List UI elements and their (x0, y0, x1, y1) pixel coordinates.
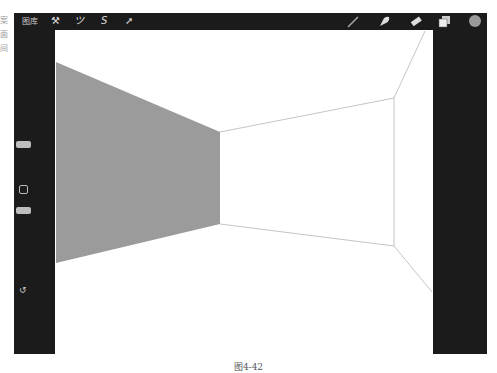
drawing-canvas[interactable] (55, 30, 433, 354)
opacity-slider[interactable] (16, 207, 31, 214)
right-panel (433, 30, 487, 354)
smudge-icon[interactable] (377, 14, 391, 28)
perspective-lines (220, 31, 432, 292)
figure-caption: 图4-42 (0, 360, 497, 373)
layers-icon[interactable] (438, 15, 451, 28)
gallery-button[interactable]: 图库 (22, 15, 38, 26)
modify-button[interactable] (19, 185, 28, 194)
undo-icon[interactable]: ↺ (19, 285, 27, 295)
left-wall-fill (56, 62, 220, 263)
selection-icon[interactable]: S (101, 15, 107, 27)
brush-icon[interactable] (346, 15, 360, 28)
top-toolbar: 图库 ⚒ ツ S ➚ (14, 13, 487, 30)
transform-arrow-icon[interactable]: ➚ (125, 15, 133, 27)
eraser-icon[interactable] (408, 15, 422, 28)
wrench-icon[interactable]: ⚒ (51, 15, 60, 27)
page-margin-text: 案 面 间 (0, 14, 12, 56)
color-picker-icon[interactable] (469, 15, 481, 27)
brush-size-slider[interactable] (16, 141, 31, 148)
margin-char: 案 (0, 14, 12, 28)
left-sidebar: ↺ (14, 30, 55, 354)
margin-char: 间 (0, 42, 12, 56)
magic-wand-icon[interactable]: ツ (74, 15, 84, 27)
margin-char: 面 (0, 28, 12, 42)
perspective-drawing (55, 30, 433, 354)
